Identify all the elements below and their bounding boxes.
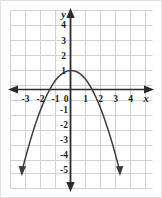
y-tick-label: -2 [60, 120, 68, 130]
y-tick-label: -5 [60, 165, 68, 175]
graph-figure: -3 -2 -1 0 1 2 3 4 4 3 2 1 -1 -2 -3 -4 -… [0, 0, 162, 198]
x-tick-label: 2 [98, 94, 103, 104]
y-tick-label: -1 [60, 105, 68, 115]
y-tick-label: 2 [61, 51, 66, 61]
y-tick-label: 4 [61, 20, 66, 30]
x-tick-label: -2 [37, 94, 45, 104]
y-tick-label: -4 [60, 150, 68, 160]
y-tick-label: 1 [61, 66, 66, 76]
x-tick-label: 4 [128, 94, 133, 104]
origin-label: 0 [64, 94, 69, 104]
x-tick-label: 3 [113, 94, 118, 104]
x-tick-label: 1 [83, 94, 88, 104]
x-tick-label: -1 [52, 94, 60, 104]
y-tick-label: 3 [61, 36, 66, 46]
x-tick-label: -3 [22, 94, 30, 104]
y-axis-label: y [59, 9, 66, 20]
coordinate-plane-chart: -3 -2 -1 0 1 2 3 4 4 3 2 1 -1 -2 -3 -4 -… [0, 0, 162, 198]
x-axis-label: x [142, 93, 148, 104]
y-tick-label: -3 [60, 135, 68, 145]
